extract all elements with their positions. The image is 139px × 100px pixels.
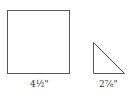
- triangle-dimension-label: 2⅞": [99, 79, 118, 89]
- right-triangle-shape: [94, 43, 125, 74]
- square-dimension-label: 4½": [30, 79, 49, 89]
- shapes-figure: [0, 0, 139, 100]
- diagram-canvas: 4½" 2⅞": [0, 0, 139, 100]
- square-shape: [8, 11, 70, 74]
